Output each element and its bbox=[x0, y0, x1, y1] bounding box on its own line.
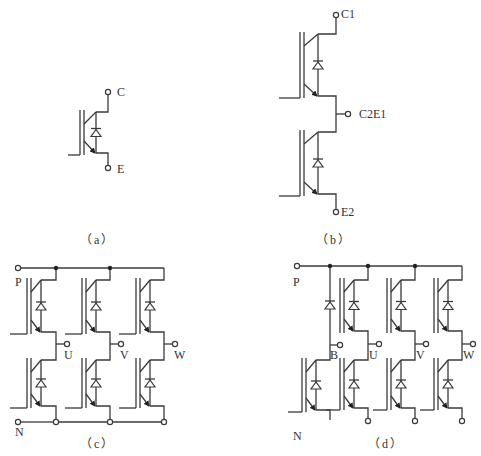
wire bbox=[41, 268, 56, 280]
collector-lead bbox=[391, 280, 401, 292]
terminal-circle-icon bbox=[15, 419, 20, 424]
collector-lead bbox=[86, 360, 96, 372]
terminal-label-d-b: B bbox=[330, 349, 338, 361]
terminal-label-b-c1: C1 bbox=[341, 8, 355, 20]
collector-lead bbox=[304, 34, 318, 46]
terminal-circle-icon bbox=[459, 418, 464, 423]
collector-lead bbox=[391, 360, 401, 372]
collector-lead bbox=[31, 360, 41, 372]
terminal-circle-icon bbox=[376, 341, 381, 346]
terminal-label-a-e: E bbox=[117, 163, 124, 175]
igbt-transistor-icon bbox=[340, 278, 359, 333]
wire bbox=[318, 194, 336, 209]
diode-icon bbox=[36, 379, 46, 387]
panel-b-half-bridge bbox=[279, 12, 351, 214]
wire bbox=[448, 266, 462, 280]
collector-lead bbox=[31, 280, 41, 292]
emitter-arrow bbox=[304, 84, 317, 96]
diode-icon bbox=[145, 302, 155, 310]
terminal-circle-icon bbox=[118, 341, 123, 346]
terminal-circle-icon bbox=[172, 341, 177, 346]
terminal-circle-icon bbox=[365, 418, 370, 423]
emitter-arrow bbox=[304, 182, 317, 194]
wire bbox=[401, 408, 415, 418]
collector-lead bbox=[140, 360, 150, 372]
collector-lead bbox=[438, 280, 448, 292]
collector-lead bbox=[306, 360, 316, 372]
terminal-label-b-e2: E2 bbox=[341, 206, 354, 218]
collector-lead bbox=[438, 360, 448, 372]
wire bbox=[448, 408, 462, 418]
diode-icon bbox=[396, 302, 406, 310]
terminal-circle-icon bbox=[105, 165, 110, 170]
wire bbox=[448, 331, 462, 360]
wire bbox=[318, 96, 336, 132]
diode-icon bbox=[91, 129, 101, 137]
terminal-circle-icon bbox=[107, 419, 112, 424]
wire bbox=[41, 406, 56, 419]
igbt-transistor-icon bbox=[288, 358, 321, 412]
wire bbox=[354, 408, 368, 418]
terminal-label-d-u: U bbox=[369, 349, 378, 361]
emitter-arrow bbox=[31, 320, 40, 332]
wire bbox=[316, 410, 330, 420]
collector-lead bbox=[84, 112, 96, 124]
diode-icon bbox=[91, 379, 101, 387]
wire bbox=[401, 266, 415, 280]
terminal-label-c-w: W bbox=[174, 349, 185, 361]
igbt-transistor-icon bbox=[387, 278, 406, 333]
caption-a: （a） bbox=[80, 234, 115, 246]
caption-c: （c） bbox=[80, 438, 115, 450]
panel-d-seven-pack bbox=[288, 263, 476, 423]
terminal-label-a-c: C bbox=[117, 86, 125, 98]
terminal-label-c-v: V bbox=[120, 349, 129, 361]
terminal-circle-icon bbox=[412, 418, 417, 423]
panel-c-six-pack bbox=[10, 265, 178, 424]
diode-icon bbox=[313, 61, 323, 69]
junction-dot-icon bbox=[413, 264, 417, 268]
emitter-arrow bbox=[391, 319, 400, 331]
diode-icon bbox=[91, 302, 101, 310]
diode-icon bbox=[443, 380, 453, 388]
diode-icon bbox=[311, 381, 321, 389]
terminal-label-c-n: N bbox=[15, 426, 24, 438]
igbt-module-diagram bbox=[0, 0, 481, 456]
terminal-label-c-u: U bbox=[64, 349, 73, 361]
terminal-circle-icon bbox=[105, 89, 110, 94]
igbt-transistor-icon bbox=[10, 358, 46, 408]
terminal-circle-icon bbox=[64, 341, 69, 346]
wire bbox=[96, 268, 110, 280]
diode-icon bbox=[349, 302, 359, 310]
igbt-transistor-icon bbox=[373, 358, 406, 410]
diode-icon bbox=[349, 380, 359, 388]
emitter-arrow bbox=[31, 394, 40, 406]
diode-icon bbox=[36, 302, 46, 310]
igbt-transistor-icon bbox=[65, 358, 101, 408]
terminal-circle-icon bbox=[345, 111, 350, 116]
diode-icon bbox=[396, 380, 406, 388]
diode-icon bbox=[313, 159, 323, 167]
caption-b: （b） bbox=[316, 234, 352, 246]
terminal-label-b-c2e1: C2E1 bbox=[359, 108, 386, 120]
junction-dot-icon bbox=[54, 266, 58, 270]
caption-d: （d） bbox=[368, 438, 404, 450]
collector-lead bbox=[140, 280, 150, 292]
wire bbox=[354, 331, 368, 360]
igbt-transistor-icon bbox=[434, 278, 453, 333]
terminal-circle-icon bbox=[15, 265, 20, 270]
terminal-label-d-w: W bbox=[463, 349, 474, 361]
igbt-transistor-icon bbox=[326, 358, 359, 410]
wire bbox=[354, 266, 368, 280]
collector-lead bbox=[344, 360, 354, 372]
igbt-transistor-icon bbox=[279, 32, 323, 98]
terminal-circle-icon bbox=[53, 419, 58, 424]
terminal-circle-icon bbox=[161, 419, 166, 424]
junction-dot-icon bbox=[366, 264, 370, 268]
emitter-arrow bbox=[344, 396, 353, 408]
igbt-transistor-icon bbox=[119, 278, 155, 334]
wire bbox=[316, 345, 330, 360]
emitter-arrow bbox=[140, 320, 149, 332]
terminal-circle-icon bbox=[337, 342, 342, 347]
terminal-label-d-p: P bbox=[293, 276, 300, 288]
terminal-circle-icon bbox=[294, 263, 299, 268]
